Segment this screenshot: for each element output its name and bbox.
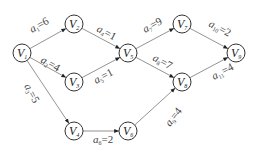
edge-label-a11: a11=4: [209, 60, 236, 83]
edge-label-a4: a4=1: [95, 22, 119, 43]
edge-label-a6: a6=2: [93, 133, 113, 146]
node-v6: V6: [119, 122, 137, 140]
edge-label-a10: a10=2: [207, 17, 234, 39]
nodes-layer: V1V2V3V4V5V6V7V8V9: [13, 15, 245, 140]
node-v1: V1: [13, 44, 31, 62]
node-v4: V4: [65, 122, 83, 140]
node-v5: V5: [119, 44, 137, 62]
edge-label-a1: a1=6: [27, 14, 51, 35]
edge-label-a5: a5=1: [91, 66, 115, 87]
edge-label-a7: a7=9: [140, 14, 164, 35]
node-v3: V3: [65, 73, 83, 91]
node-v2: V2: [65, 15, 83, 33]
graph-diagram: a1=6a2=4a3=5a4=1a5=1a6=2a7=9a8=7a9=4a10=…: [0, 0, 270, 154]
edge-label-a8: a8=7: [151, 51, 175, 72]
edge-label-a9: a9=4: [162, 105, 185, 129]
edge-a7: [136, 28, 174, 48]
node-v8: V8: [173, 73, 191, 91]
edge-label-a2: a2=4: [39, 53, 63, 74]
node-v7: V7: [173, 15, 191, 33]
node-v9: V9: [227, 44, 245, 62]
edge-label-a3: a3=5: [21, 81, 42, 105]
